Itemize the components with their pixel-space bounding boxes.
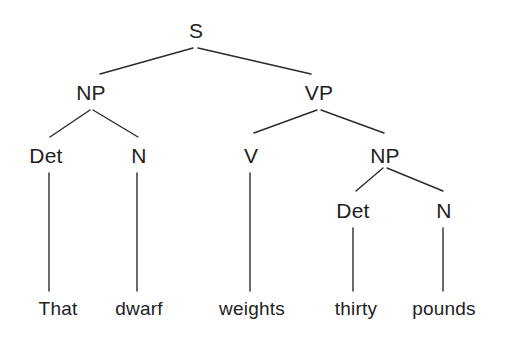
tree-node-n2: N (436, 200, 451, 221)
tree-node-det2: Det (336, 200, 369, 221)
tree-node-vp: VP (305, 82, 333, 103)
tree-edge-np1-to-n1 (93, 110, 138, 137)
tree-leaf-w5: pounds (412, 299, 476, 318)
tree-node-n1: N (131, 145, 146, 166)
tree-edge-vp-to-v (254, 110, 317, 133)
tree-edge-np1-to-det1 (50, 110, 90, 137)
tree-edge-vp-to-np2 (321, 110, 384, 133)
tree-node-v: V (244, 145, 258, 166)
tree-edges-layer (0, 0, 508, 338)
tree-leaf-w4: thirty (335, 299, 377, 318)
tree-node-np2: NP (370, 145, 400, 166)
tree-node-np1: NP (76, 82, 106, 103)
syntax-tree-figure: SNPVPDetNVNPDetNThatdwarfweightsthirtypo… (0, 0, 508, 338)
tree-edge-s-to-np1 (100, 48, 193, 74)
tree-node-s: S (189, 20, 203, 41)
tree-leaf-w1: That (39, 299, 78, 318)
tree-edge-np2-to-n2 (387, 168, 443, 191)
tree-edge-s-to-vp (198, 48, 311, 74)
edge-group (49, 48, 443, 291)
tree-leaf-w2: dwarf (115, 299, 162, 318)
tree-edge-np2-to-det2 (356, 168, 383, 191)
tree-node-det1: Det (29, 145, 62, 166)
tree-leaf-w3: weights (219, 299, 285, 318)
